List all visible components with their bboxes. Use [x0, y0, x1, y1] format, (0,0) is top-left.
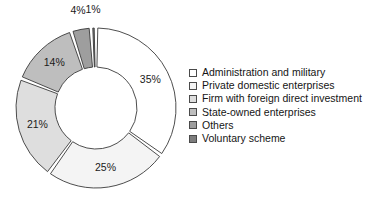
legend-swatch-icon — [189, 69, 197, 77]
legend-swatch-icon — [189, 82, 197, 90]
legend-item-label: Others — [202, 119, 234, 132]
legend-item-label: Firm with foreign direct investment — [202, 92, 362, 105]
legend-swatch-icon — [189, 108, 197, 116]
legend-swatch-icon — [189, 95, 197, 103]
legend-item[interactable]: Others — [189, 119, 383, 132]
pie-slice-label: 21% — [27, 118, 48, 130]
donut-chart-figure: 35%25%21%14%4%1% Administration and mili… — [0, 0, 383, 202]
legend-swatch-icon — [189, 121, 197, 129]
pie-slice-label: 1% — [85, 3, 100, 15]
pie-slice[interactable] — [93, 28, 95, 67]
legend-item-label: Private domestic enterprises — [202, 79, 334, 92]
legend-item-label: State-owned enterprises — [202, 106, 316, 119]
legend-item[interactable]: Firm with foreign direct investment — [189, 92, 383, 105]
legend-item-label: Administration and military — [202, 66, 325, 79]
legend-item[interactable]: Administration and military — [189, 66, 383, 79]
pie-slice-label: 4% — [70, 4, 85, 16]
legend-item[interactable]: Voluntary scheme — [189, 132, 383, 145]
pie-slice-label: 25% — [95, 161, 116, 173]
chart-legend: Administration and militaryPrivate domes… — [189, 66, 383, 145]
legend-item[interactable]: State-owned enterprises — [189, 106, 383, 119]
pie-slice-label: 35% — [140, 73, 161, 85]
legend-item-label: Voluntary scheme — [202, 132, 285, 145]
pie-slice[interactable] — [97, 28, 176, 154]
pie-slice-label: 14% — [44, 56, 65, 68]
legend-swatch-icon — [189, 135, 197, 143]
legend-item[interactable]: Private domestic enterprises — [189, 79, 383, 92]
